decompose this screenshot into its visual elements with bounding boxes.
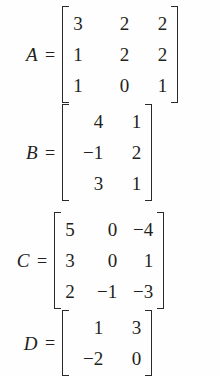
matrix-definition-d: D = 1 3 −2 0 [0,310,220,376]
matrix-body-d: 1 3 −2 0 [62,310,152,376]
matrix-cell: −1 [81,276,117,307]
matrix-cell: 2 [129,39,167,70]
matrix-row: 4 1 [73,106,141,137]
matrix-label-a: A [0,45,38,64]
matrix-cell: −4 [117,214,153,245]
matrix-label-b: B [0,143,38,162]
equals-sign-d: = [38,334,62,352]
matrix-definition-a: A = 3 2 2 1 2 2 1 0 1 [0,6,220,103]
left-bracket-b [62,104,69,201]
matrix-cell: −3 [117,276,153,307]
matrix-cell: −2 [73,343,103,374]
matrix-row: 5 0 −4 [65,214,153,245]
matrix-grid-d: 1 3 −2 0 [73,312,141,374]
matrix-definition-b: B = 4 1 −1 2 3 1 [0,104,220,201]
matrix-cell: 1 [103,168,141,199]
matrix-body-b: 4 1 −1 2 3 1 [62,104,152,201]
matrix-row: −1 2 [73,137,141,168]
matrix-cell: 3 [65,245,81,276]
matrix-cell: 1 [73,70,91,101]
matrix-cell: 1 [103,106,141,137]
matrix-cell: 0 [81,245,117,276]
matrix-cell: 3 [103,312,141,343]
matrix-row: 1 3 [73,312,141,343]
equals-sign-a: = [38,46,62,64]
matrix-body-a: 3 2 2 1 2 2 1 0 1 [62,6,178,103]
matrix-cell: 3 [73,168,103,199]
matrix-cell: 2 [91,39,129,70]
equals-sign-c: = [30,252,54,270]
matrix-grid-c: 5 0 −4 3 0 1 2 −1 −3 [65,214,153,307]
matrix-cell: 1 [73,312,103,343]
matrix-cell: 1 [73,39,91,70]
matrix-definition-c: C = 5 0 −4 3 0 1 2 −1 −3 [0,212,220,309]
matrix-row: 1 2 2 [73,39,167,70]
matrix-label-c: C [0,251,30,270]
matrix-row: −2 0 [73,343,141,374]
right-bracket-d [145,310,152,376]
matrix-cell: 4 [73,106,103,137]
matrix-row: 3 2 2 [73,8,167,39]
matrix-cell: 5 [65,214,81,245]
matrix-cell: 1 [117,245,153,276]
left-bracket-a [62,6,69,103]
matrix-cell: 0 [91,70,129,101]
matrix-row: 3 0 1 [65,245,153,276]
matrix-row: 1 0 1 [73,70,167,101]
matrix-cell: 2 [91,8,129,39]
matrix-cell: 2 [103,137,141,168]
matrix-cell: 3 [73,8,91,39]
equals-sign-b: = [38,144,62,162]
matrix-body-c: 5 0 −4 3 0 1 2 −1 −3 [54,212,164,309]
matrix-cell: −1 [73,137,103,168]
matrix-row: 3 1 [73,168,141,199]
left-bracket-d [62,310,69,376]
matrix-cell: 0 [103,343,141,374]
matrix-cell: 0 [81,214,117,245]
matrix-cell: 2 [129,8,167,39]
matrix-cell: 1 [129,70,167,101]
matrix-grid-a: 3 2 2 1 2 2 1 0 1 [73,8,167,101]
matrix-grid-b: 4 1 −1 2 3 1 [73,106,141,199]
matrix-label-d: D [0,334,38,353]
right-bracket-a [171,6,178,103]
matrix-cell: 2 [65,276,81,307]
matrix-row: 2 −1 −3 [65,276,153,307]
right-bracket-c [157,212,164,309]
right-bracket-b [145,104,152,201]
left-bracket-c [54,212,61,309]
